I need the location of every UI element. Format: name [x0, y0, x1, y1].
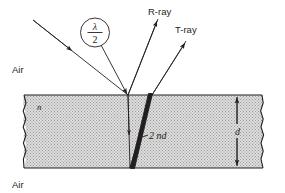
reflected-ray	[128, 19, 158, 95]
thin-film-interference-diagram: λ 2 d Air Air n 2 nd R-ray T-ray	[0, 0, 285, 193]
optical-path-label: 2 nd	[149, 130, 168, 141]
phase-shift-pointer	[101, 45, 127, 94]
reflected-ray-arrowhead	[128, 21, 157, 95]
air-label-top: Air	[12, 64, 24, 75]
transmitted-ray-label: T-ray	[175, 24, 197, 35]
phase-shift-callout: λ 2	[81, 18, 128, 94]
transmitted-ray	[152, 41, 186, 95]
reflected-ray-label: R-ray	[148, 6, 171, 17]
phase-shift-numerator: λ	[92, 21, 98, 32]
transmitted-ray-arrowhead	[152, 43, 185, 95]
incident-ray-arrowhead	[33, 20, 72, 51]
refractive-index-label: n	[37, 102, 42, 112]
diagram-canvas: λ 2 d Air Air n 2 nd R-ray T-ray	[0, 0, 285, 193]
phase-shift-denominator: 2	[93, 34, 98, 45]
air-label-bottom: Air	[12, 179, 24, 190]
